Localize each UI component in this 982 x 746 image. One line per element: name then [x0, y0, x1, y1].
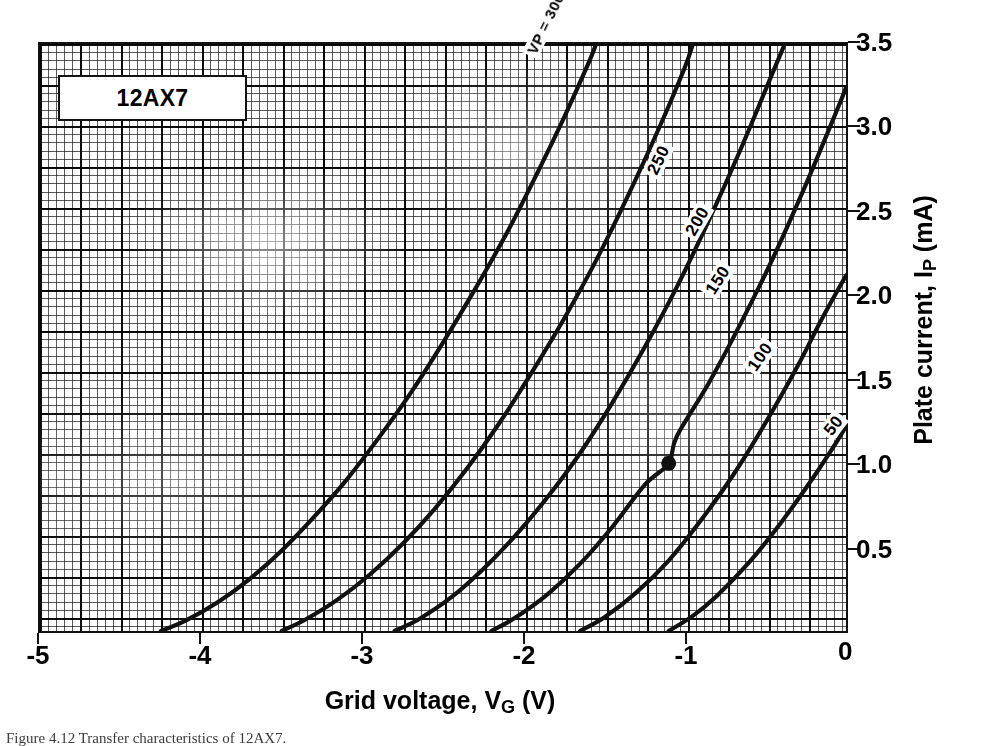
curve-layer: [40, 44, 846, 631]
plot-area: [38, 42, 848, 633]
x-tick-label: -3: [350, 640, 373, 671]
curve-vp-150: [491, 88, 846, 631]
figure-caption: Figure 4.12 Transfer characteristics of …: [6, 730, 286, 746]
x-tick-label: -4: [188, 640, 211, 671]
x-tick-mark: [685, 633, 687, 644]
x-axis-title-subscript: G: [501, 697, 515, 717]
device-label-box: 12AX7: [58, 75, 247, 121]
x-axis-title-prefix: Grid voltage, V: [325, 686, 501, 714]
y-tick-label: 3.5: [856, 27, 892, 58]
x-axis-title-suffix: (V): [515, 686, 555, 714]
y-axis-title-wrap: Plate current, IP (mA): [905, 60, 945, 580]
y-axis-title-suffix: (mA): [909, 195, 937, 259]
y-tick-label: 3.0: [856, 111, 892, 142]
curve-vp-100: [580, 275, 846, 631]
curve-vp-300: [161, 44, 596, 631]
y-tick-label: 2.5: [856, 195, 892, 226]
y-axis-title: Plate current, IP (mA): [909, 195, 941, 445]
y-tick-label: 2.0: [856, 280, 892, 311]
y-tick-label: 1.0: [856, 449, 892, 480]
y-axis-title-subscript: P: [920, 259, 940, 271]
x-tick-mark: [361, 633, 363, 644]
x-axis-title: Grid voltage, VG (V): [0, 686, 880, 718]
operating-point-marker: [661, 456, 676, 471]
y-axis-title-prefix: Plate current, I: [909, 271, 937, 445]
x-tick-label: -2: [512, 640, 535, 671]
x-tick-mark: [199, 633, 201, 644]
y-tick-label: 0.5: [856, 533, 892, 564]
x-tick-label: -1: [674, 640, 697, 671]
curve-vp-250: [282, 44, 693, 631]
x-tick-mark: [523, 633, 525, 644]
device-label: 12AX7: [117, 85, 189, 112]
y-tick-label: 0: [838, 636, 852, 667]
x-tick-mark: [37, 633, 39, 644]
figure-root: 12AX7 VP = 300 VOLTS 250 200 150 100 50 …: [0, 0, 982, 746]
x-tick-label: -5: [26, 640, 49, 671]
curves-svg: [40, 44, 846, 631]
y-tick-label: 1.5: [856, 364, 892, 395]
curve-vp-200: [395, 44, 785, 631]
